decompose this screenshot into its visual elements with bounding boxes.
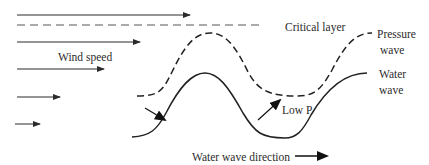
low-p-label: Low P	[282, 103, 312, 117]
low-pressure-arrow-left	[145, 108, 165, 120]
water-wave-label-line2: wave	[379, 83, 403, 97]
wind-speed-label: Wind speed	[58, 50, 112, 64]
pressure-wave-label-line2: wave	[380, 43, 404, 57]
wind-wave-diagram	[0, 0, 429, 165]
pressure-wave-label-line1: Pressure	[377, 27, 416, 41]
pressure-wave-curve	[137, 33, 372, 96]
low-pressure-arrow-right	[258, 100, 280, 120]
water-wave-curve	[132, 73, 367, 138]
water-wave-label-line1: Water	[379, 67, 406, 81]
critical-layer-label: Critical layer	[285, 20, 345, 34]
wind-speed-arrows	[15, 15, 190, 124]
water-wave-direction-label: Water wave direction	[192, 150, 290, 164]
